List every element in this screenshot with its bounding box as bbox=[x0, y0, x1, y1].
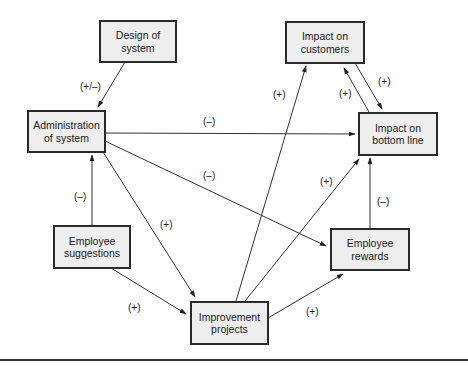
bottom-divider bbox=[0, 359, 468, 361]
node-label: Employee suggestions bbox=[64, 235, 120, 260]
arrow-suggestions-to-projects bbox=[111, 268, 186, 314]
edge-label-projects-bottom: (+) bbox=[320, 176, 333, 187]
node-employee-suggestions: Employee suggestions bbox=[53, 225, 131, 269]
edge-label-projects-rewards: (+) bbox=[306, 306, 319, 317]
arrow-design-to-admin bbox=[98, 62, 125, 107]
edge-label-bottom-customers: (+) bbox=[339, 88, 352, 99]
edge-label-projects-customers: (+) bbox=[273, 89, 286, 100]
edge-label-suggestions-admin: (–) bbox=[74, 191, 86, 202]
arrow-admin-to-bottom bbox=[105, 133, 355, 134]
edge-label-suggestions-projects: (+) bbox=[128, 302, 141, 313]
node-design-of-system: Design of system bbox=[99, 20, 177, 63]
edge-label-admin-projects: (+) bbox=[160, 219, 173, 230]
node-label: Design of system bbox=[116, 29, 160, 54]
edge-label-admin-bottom: (–) bbox=[203, 116, 215, 127]
node-label: Administration of system bbox=[33, 119, 100, 144]
node-employee-rewards: Employee rewards bbox=[330, 228, 410, 271]
arrow-projects-to-customers bbox=[236, 66, 306, 301]
edge-label-customers-bottom: (+) bbox=[378, 76, 391, 87]
node-improvement-projects: Improvement projects bbox=[190, 301, 269, 345]
node-label: Impact on customers bbox=[301, 30, 349, 55]
node-label: Impact on bottom line bbox=[372, 122, 423, 147]
node-impact-on-customers: Impact on customers bbox=[285, 21, 365, 64]
edge-label-design-admin: (+/–) bbox=[80, 81, 101, 92]
edge-label-rewards-bottom: (–) bbox=[377, 196, 389, 207]
node-impact-on-bottom-line: Impact on bottom line bbox=[358, 112, 438, 156]
edge-label-admin-rewards: (–) bbox=[203, 170, 215, 181]
node-label: Improvement projects bbox=[199, 311, 260, 336]
node-administration-of-system: Administration of system bbox=[27, 110, 106, 153]
node-label: Employee rewards bbox=[347, 237, 394, 262]
arrow-admin-to-rewards bbox=[105, 141, 326, 246]
